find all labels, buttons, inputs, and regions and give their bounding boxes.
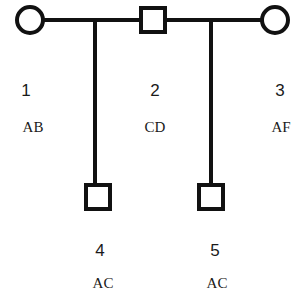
male-square-icon: [141, 8, 165, 32]
genotype-label: CD: [145, 119, 166, 135]
individual-3: 3 AF: [262, 7, 291, 135]
genotype-label: AB: [23, 119, 44, 135]
individual-number: 2: [150, 81, 159, 100]
individual-number: 1: [21, 81, 30, 100]
female-circle-icon: [17, 7, 43, 33]
pedigree-diagram: 1 AB 2 CD 3 AF 4 AC 5 AC: [0, 0, 301, 300]
individual-number: 4: [95, 241, 104, 260]
individual-1: 1 AB: [17, 7, 43, 135]
individual-number: 3: [275, 81, 284, 100]
male-square-icon: [86, 185, 110, 209]
female-circle-icon: [262, 7, 288, 33]
individual-4: 4 AC: [86, 185, 113, 291]
pedigree-canvas: 1 AB 2 CD 3 AF 4 AC 5 AC: [0, 0, 301, 300]
individual-2: 2 CD: [141, 8, 166, 135]
male-square-icon: [199, 185, 223, 209]
individual-5: 5 AC: [199, 185, 227, 291]
genotype-label: AC: [93, 275, 114, 291]
genotype-label: AF: [271, 119, 290, 135]
genotype-label: AC: [207, 275, 228, 291]
individual-number: 5: [210, 241, 219, 260]
